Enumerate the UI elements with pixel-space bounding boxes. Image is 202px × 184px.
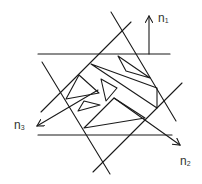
label-n1: n1 bbox=[158, 12, 169, 24]
upper-diagonal-up-line bbox=[41, 22, 131, 112]
upper-band-fragment bbox=[91, 64, 157, 108]
label-n2: n2 bbox=[180, 155, 191, 167]
left-triangle-fragment bbox=[66, 75, 99, 99]
fracture-diagram bbox=[0, 0, 202, 184]
label-n3: n3 bbox=[14, 119, 25, 131]
small-triangle-fragment bbox=[78, 101, 100, 111]
lower-diagonal-up-line bbox=[93, 83, 182, 172]
normal-vectors bbox=[37, 16, 180, 145]
middle-triangle-fragment bbox=[101, 79, 117, 101]
top-right-sliver-fragment bbox=[118, 56, 150, 78]
boundary-lines bbox=[38, 12, 182, 174]
left-diagonal-down-line bbox=[42, 62, 110, 174]
right-diagonal-down-line bbox=[111, 12, 176, 121]
